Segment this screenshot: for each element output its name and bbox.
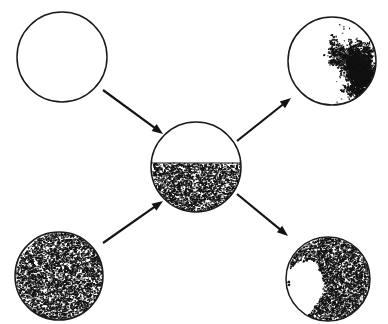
diagram-canvas [0,0,388,324]
diagram-svg [0,0,388,324]
